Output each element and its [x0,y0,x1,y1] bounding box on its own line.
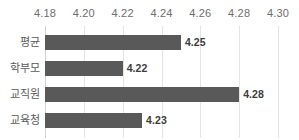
x-tick-label: 4.18 [34,7,56,20]
x-tick-label: 4.20 [73,7,95,20]
x-tick-label: 4.30 [267,7,289,20]
category-axis-labels: 평균학부모교직원교육청 [0,26,45,138]
bars-layer: 4.254.224.284.23 [45,26,278,138]
bar [45,35,181,50]
x-axis-tick-labels: 4.184.204.224.244.264.284.30 [0,0,299,26]
bar [45,61,123,76]
category-label: 평균 [20,35,40,50]
plot-area: 4.254.224.284.23 [45,26,278,138]
bar-value-label: 4.25 [185,35,206,50]
x-tick-label: 4.28 [228,7,250,20]
bar-value-label: 4.22 [127,61,148,76]
horizontal-bar-chart: 4.184.204.224.244.264.284.30 4.254.224.2… [0,0,299,140]
x-tick-label: 4.26 [189,7,211,20]
bar-value-label: 4.23 [146,113,167,128]
category-label: 학부모 [10,61,40,76]
bar-value-label: 4.28 [243,87,264,102]
bar [45,113,142,128]
gridline [278,26,279,138]
x-tick-label: 4.24 [150,7,172,20]
category-label: 교직원 [10,87,40,102]
category-label: 교육청 [10,113,40,128]
bar [45,87,239,102]
x-tick-label: 4.22 [112,7,134,20]
